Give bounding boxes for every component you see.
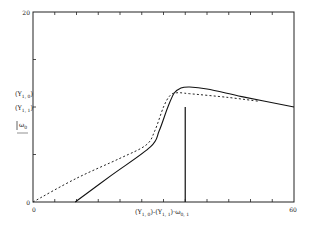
dashed-series-line [33, 93, 259, 202]
y-annotation-y10: (Y1, 0) [15, 90, 33, 99]
x-axis-label: (Y1, 0)-(Y1, 1)·ω0, 1 [135, 208, 189, 217]
y-tick-label-top: 20 [22, 9, 30, 16]
y-axis-label: ω0 [17, 121, 28, 133]
line-chart: 20 0 0 60 (Y1, 0) (Y1, 1) ω0 (Y1, 0)-(Y1… [0, 0, 310, 225]
svg-text:ω0: ω0 [19, 121, 27, 130]
x-tick-label-left: 0 [32, 206, 36, 213]
y-annotation-y11: (Y1, 1) [15, 104, 33, 113]
y-tick-label-bottom: 0 [26, 199, 30, 206]
x-tick-label-right: 60 [289, 206, 297, 213]
